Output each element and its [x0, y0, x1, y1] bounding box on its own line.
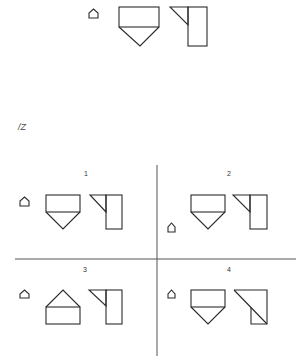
- small-house-icon: [20, 290, 29, 298]
- option-3[interactable]: 3: [20, 266, 122, 324]
- option-3-shape-b: [89, 290, 122, 324]
- problem-label: /Z: [17, 122, 27, 132]
- small-house-icon: [89, 9, 98, 18]
- option-number: 3: [83, 266, 87, 273]
- option-1[interactable]: 1: [20, 170, 122, 229]
- option-2-shape-a: [191, 195, 225, 229]
- option-4-shape-b: [234, 290, 267, 324]
- small-house-icon: [20, 197, 29, 206]
- option-3-shape-a: [46, 290, 80, 324]
- option-number: 4: [227, 266, 231, 273]
- option-2-shape-b: [233, 195, 267, 229]
- option-1-shape-b: [90, 195, 122, 229]
- stimulus-shape-b: [170, 7, 207, 46]
- small-house-icon: [168, 290, 175, 298]
- option-4[interactable]: 4: [168, 266, 267, 324]
- small-house-icon: [168, 223, 175, 232]
- diagram-canvas: /Z 1 2 3: [0, 0, 307, 363]
- option-number: 2: [227, 170, 231, 177]
- option-4-shape-a: [191, 290, 225, 324]
- option-number: 1: [84, 170, 88, 177]
- stimulus-group: [89, 7, 207, 46]
- stimulus-shape-a: [119, 7, 159, 46]
- option-1-shape-a: [46, 195, 80, 229]
- option-2[interactable]: 2: [168, 170, 267, 232]
